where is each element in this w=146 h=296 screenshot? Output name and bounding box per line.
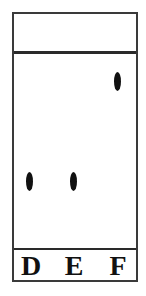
lane-label-d: D [19,252,43,280]
lane-label-e: E [62,252,86,280]
solvent-front-line [14,51,136,54]
spot-lane-f [114,72,121,91]
spot-lane-d [26,172,33,191]
lane-label-f: F [106,252,130,280]
spot-lane-e [70,172,77,191]
tlc-plate: D E F [12,12,138,282]
lane-labels-row: D E F [14,250,136,280]
